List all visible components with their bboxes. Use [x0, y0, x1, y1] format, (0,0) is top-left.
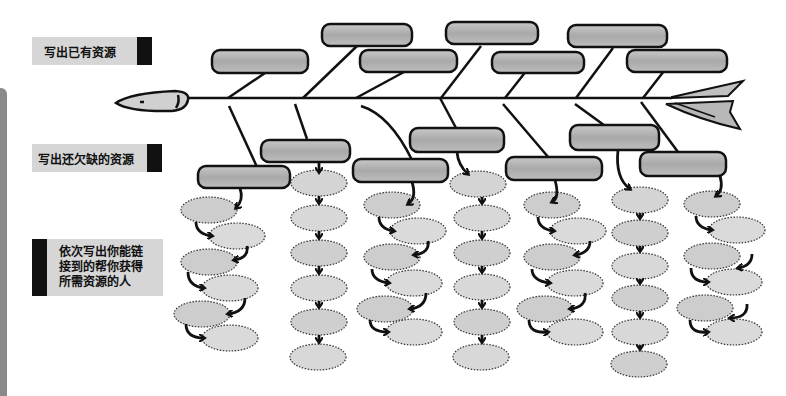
person-oval[interactable] — [517, 296, 573, 322]
top-box[interactable] — [627, 50, 727, 72]
fish-head-icon — [116, 91, 188, 111]
person-oval[interactable] — [706, 269, 762, 295]
person-oval[interactable] — [202, 325, 258, 351]
person-oval[interactable] — [357, 296, 413, 322]
oval-chains — [174, 170, 765, 377]
person-oval[interactable] — [612, 285, 668, 311]
person-oval[interactable] — [454, 205, 510, 231]
person-oval[interactable] — [684, 191, 740, 217]
person-oval[interactable] — [364, 192, 420, 218]
top-boxes — [212, 22, 727, 73]
bottom-box[interactable] — [506, 157, 602, 180]
bottom-box[interactable] — [261, 140, 350, 162]
person-oval[interactable] — [706, 319, 762, 345]
top-box[interactable] — [212, 50, 308, 73]
person-oval[interactable] — [181, 249, 237, 275]
top-box[interactable] — [360, 50, 457, 72]
fish-tail-icon — [666, 81, 743, 129]
person-oval[interactable] — [386, 319, 442, 345]
bottom-box[interactable] — [640, 152, 726, 176]
person-oval[interactable] — [612, 220, 668, 246]
person-oval[interactable] — [181, 197, 237, 223]
top-box[interactable] — [568, 25, 667, 47]
person-oval[interactable] — [550, 218, 606, 244]
top-box[interactable] — [446, 22, 538, 44]
person-oval[interactable] — [612, 319, 668, 345]
person-oval[interactable] — [524, 244, 580, 270]
person-oval[interactable] — [612, 187, 668, 213]
person-oval[interactable] — [290, 344, 346, 370]
bottom-box[interactable] — [198, 166, 290, 188]
person-oval[interactable] — [364, 244, 420, 270]
person-oval[interactable] — [453, 344, 509, 370]
top-box[interactable] — [322, 24, 412, 46]
person-oval[interactable] — [612, 253, 668, 279]
person-oval[interactable] — [202, 275, 258, 301]
person-oval[interactable] — [386, 270, 442, 296]
person-oval[interactable] — [209, 223, 265, 249]
person-oval[interactable] — [524, 192, 580, 218]
person-oval[interactable] — [291, 275, 347, 301]
person-oval[interactable] — [547, 270, 603, 296]
top-box[interactable] — [492, 52, 584, 73]
person-oval[interactable] — [450, 171, 506, 197]
person-oval[interactable] — [709, 217, 765, 243]
person-oval[interactable] — [684, 243, 740, 269]
person-oval[interactable] — [291, 240, 347, 266]
person-oval[interactable] — [454, 309, 510, 335]
person-oval[interactable] — [390, 218, 446, 244]
bottom-box[interactable] — [353, 159, 448, 182]
person-oval[interactable] — [291, 170, 347, 196]
person-oval[interactable] — [454, 240, 510, 266]
person-oval[interactable] — [547, 319, 603, 345]
person-oval[interactable] — [677, 295, 733, 321]
bottom-box[interactable] — [570, 125, 659, 150]
person-oval[interactable] — [611, 351, 667, 377]
person-oval[interactable] — [291, 205, 347, 231]
person-oval[interactable] — [291, 309, 347, 335]
person-oval[interactable] — [454, 274, 510, 300]
person-oval[interactable] — [174, 301, 230, 327]
fishbone-diagram — [0, 0, 786, 396]
bottom-box[interactable] — [410, 128, 504, 152]
